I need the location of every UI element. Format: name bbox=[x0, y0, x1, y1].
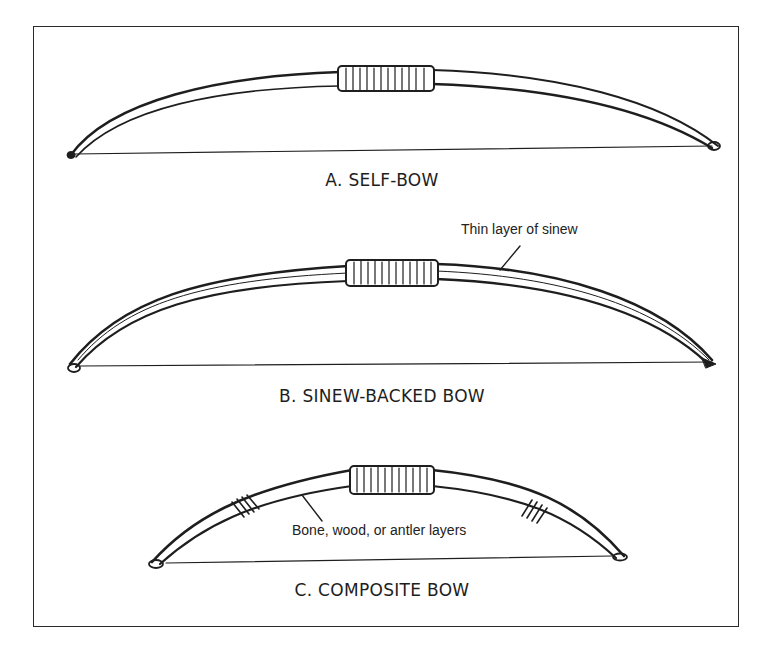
sinew-leader-line bbox=[500, 246, 520, 270]
caption-sinew-backed-bow: B. SINEW-BACKED BOW bbox=[279, 386, 485, 406]
bow-illustrations bbox=[0, 0, 765, 650]
caption-composite-bow: C. COMPOSITE BOW bbox=[295, 580, 470, 600]
caption-self-bow: A. SELF-BOW bbox=[325, 170, 438, 190]
self-bow-drawing bbox=[67, 66, 720, 159]
sinew-backed-bow-drawing bbox=[68, 246, 716, 372]
bow-types-diagram: Thin layer of sinew Bone, wood, or antle… bbox=[0, 0, 765, 650]
layers-leader-line bbox=[302, 495, 322, 521]
annotation-sinew: Thin layer of sinew bbox=[461, 221, 578, 237]
annotation-layers: Bone, wood, or antler layers bbox=[292, 522, 466, 538]
composite-bow-drawing bbox=[149, 466, 627, 568]
